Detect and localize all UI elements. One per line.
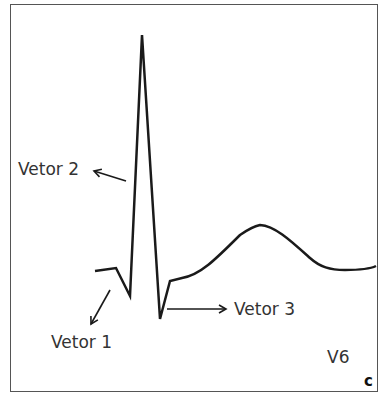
panel-letter: C [364, 374, 373, 389]
lead-label: V6 [327, 349, 349, 366]
vetor2-label: Vetor 2 [18, 161, 79, 178]
vetor2-arrow [94, 171, 126, 181]
ecg-trace [95, 35, 376, 319]
vetor3-label: Vetor 3 [234, 301, 295, 318]
vetor1-arrow [91, 290, 110, 324]
vetor1-label: Vetor 1 [51, 334, 112, 351]
